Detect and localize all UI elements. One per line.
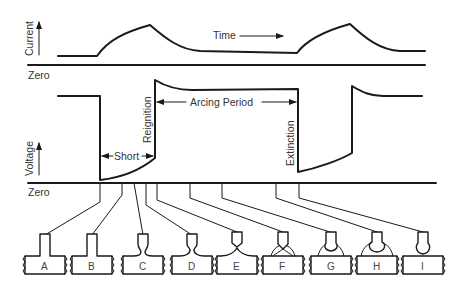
stage-label-c: C	[139, 261, 146, 272]
stage-f: F	[261, 232, 305, 274]
stage-d: D	[170, 234, 214, 274]
leader-line-i	[299, 183, 423, 232]
voltage-axis-label: Voltage	[23, 141, 35, 176]
arcing-period-label: Arcing Period	[190, 96, 253, 108]
stage-label-h: H	[373, 261, 380, 272]
stage-label-g: G	[327, 261, 335, 272]
stage-g: G	[309, 232, 353, 274]
stage-label-f: F	[279, 261, 285, 272]
leader-line-c	[134, 183, 143, 235]
short-circuit-transfer-diagram: Current Time Zero Voltage Reignition Arc…	[0, 0, 465, 289]
leader-lines	[45, 183, 423, 235]
stage-label-b: B	[88, 261, 95, 272]
leader-line-a	[45, 183, 100, 235]
voltage-zero-label: Zero	[28, 186, 50, 198]
current-waveform	[58, 24, 425, 56]
voltage-waveform	[58, 80, 422, 180]
leader-line-h	[276, 183, 377, 232]
reignition-label: Reignition	[141, 96, 153, 143]
leader-line-d	[146, 183, 192, 235]
current-axis-label: Current	[23, 21, 35, 56]
stage-b: B	[70, 234, 114, 274]
stage-label-a: A	[41, 261, 48, 272]
time-label: Time	[213, 29, 236, 41]
stage-label-i: I	[421, 261, 424, 272]
stage-label-e: E	[233, 261, 240, 272]
voltage-graph: Voltage Reignition Arcing Period Short E…	[23, 80, 436, 198]
extinction-label: Extinction	[284, 120, 296, 166]
short-label: Short	[114, 150, 139, 162]
leader-line-b	[92, 183, 122, 235]
current-graph: Current Time Zero	[23, 21, 425, 81]
stage-c: C	[121, 234, 165, 274]
leader-line-f	[190, 183, 283, 232]
stage-a: A	[23, 234, 67, 274]
stage-label-d: D	[188, 261, 195, 272]
current-zero-label: Zero	[28, 69, 50, 81]
stage-e: E	[215, 232, 259, 274]
stage-h: H	[355, 232, 399, 274]
leader-line-e	[157, 183, 237, 232]
stage-i: I	[401, 232, 445, 274]
